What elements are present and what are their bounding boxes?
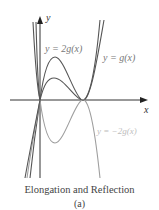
- label-neg-2g: y = −2g(x): [97, 127, 137, 136]
- x-axis-label: x: [144, 105, 148, 115]
- figure-subcaption: (a): [0, 198, 159, 209]
- figure-caption: Elongation and Reflection: [0, 184, 159, 195]
- label-g: y = g(x): [103, 53, 135, 63]
- graph-canvas: [0, 0, 159, 210]
- label-2g: y = 2g(x): [45, 44, 82, 54]
- curve-2g-left-branch: [25, 100, 40, 178]
- figure: y x y = 2g(x) y = g(x) y = −2g(x) Elonga…: [0, 0, 159, 210]
- y-axis-label: y: [46, 13, 50, 23]
